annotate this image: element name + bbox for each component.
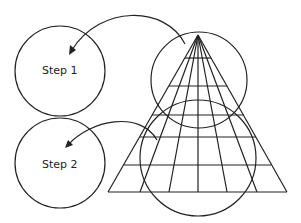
perspective-grid (108, 35, 287, 192)
diagram-canvas: Step 1 Step 2 (0, 0, 301, 223)
step2-label: Step 2 (42, 158, 78, 171)
step1-label: Step 1 (42, 64, 78, 77)
step-diagram: Step 1 Step 2 (0, 0, 301, 223)
upper-lens-circle (151, 32, 247, 128)
arrow-to-step2 (68, 121, 157, 145)
arrow-to-step1 (72, 15, 185, 50)
